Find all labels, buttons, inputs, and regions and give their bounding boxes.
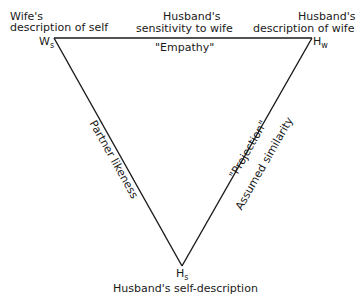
husband-self-label: Husband's self-description <box>113 283 258 295</box>
husband-wife-label-line2: description of wife <box>253 23 354 35</box>
empathy-label: "Empathy" <box>155 42 214 54</box>
vertex-ws: Ws <box>39 36 54 49</box>
wife-self-label-line2: description of self <box>10 22 108 34</box>
vertex-hs: Hs <box>176 268 188 281</box>
vertex-hw: Hw <box>313 36 328 49</box>
edge-left <box>54 38 182 266</box>
empathy-label-line2: sensitivity to wife <box>136 23 233 35</box>
